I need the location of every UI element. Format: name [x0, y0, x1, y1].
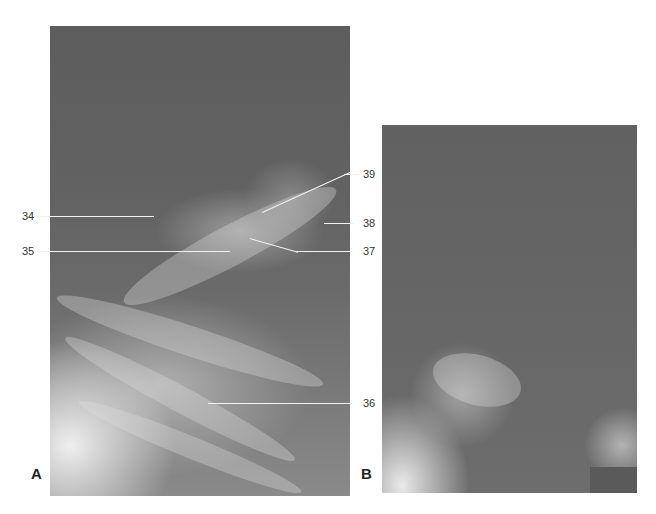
radiograph-panel-b	[382, 125, 637, 493]
label-34: 34	[22, 210, 34, 222]
leader-line-36	[208, 403, 353, 404]
panel-letter-a: A	[31, 465, 42, 482]
label-37: 37	[363, 245, 375, 257]
bone-shadow	[427, 344, 527, 416]
radiograph-panel-a	[50, 26, 350, 496]
leader-line-35	[37, 251, 230, 252]
label-36: 36	[363, 397, 375, 409]
leader-line-37b	[296, 251, 353, 252]
marker-plate	[590, 467, 637, 493]
leader-line-38	[324, 223, 354, 224]
label-38: 38	[363, 217, 375, 229]
leader-line-39b	[344, 174, 359, 175]
clavicle-shadow	[115, 172, 346, 320]
label-35: 35	[22, 245, 34, 257]
panel-letter-b: B	[361, 465, 372, 482]
leader-line-34	[37, 216, 154, 217]
rib-shadow	[52, 283, 328, 398]
label-39: 39	[363, 168, 375, 180]
